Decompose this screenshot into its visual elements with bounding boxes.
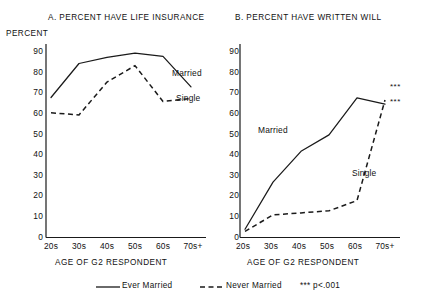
panel-b-line-married	[245, 98, 385, 229]
panel-a-line-single	[51, 66, 191, 115]
panel-a-line-married	[51, 53, 191, 97]
panel-a-axes	[46, 44, 206, 238]
panel-b-line-single	[245, 100, 385, 231]
figure-container: A. PERCENT HAVE LIFE INSURANCE B. PERCEN…	[0, 0, 422, 306]
chart-vector-layer	[0, 0, 422, 306]
